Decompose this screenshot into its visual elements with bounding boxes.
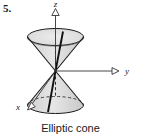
z-axis-label: z — [53, 0, 58, 9]
y-axis-label: y — [124, 66, 129, 76]
elliptic-cone-diagram: z y x — [0, 0, 141, 139]
x-axis-label: x — [15, 102, 20, 112]
z-axis-arrowhead-icon — [52, 9, 59, 16]
figure-container: 5. — [0, 0, 141, 139]
figure-caption: Elliptic cone — [0, 122, 141, 135]
y-axis-arrowhead-icon — [112, 68, 119, 75]
lower-nappe — [28, 71, 84, 114]
